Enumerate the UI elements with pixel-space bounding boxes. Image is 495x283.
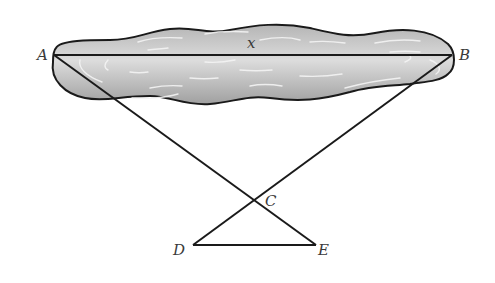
lake-triangle-diagram: A B x C D E <box>0 0 495 283</box>
point-label-A: A <box>35 46 48 64</box>
point-label-C: C <box>265 192 277 210</box>
diagram-canvas: A B x C D E <box>0 0 495 283</box>
point-label-B: B <box>458 46 470 64</box>
point-label-D: D <box>172 241 185 259</box>
distance-label-x: x <box>247 34 256 52</box>
point-label-E: E <box>317 241 329 259</box>
